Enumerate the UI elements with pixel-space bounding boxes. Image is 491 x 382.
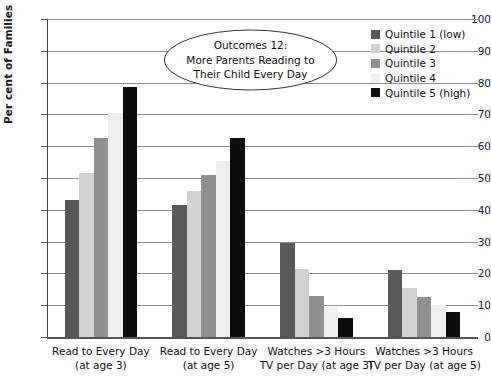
- legend-item[interactable]: Quintile 5 (high): [371, 85, 489, 100]
- legend-swatch-icon: [371, 30, 380, 39]
- legend-label: Quintile 5 (high): [385, 87, 470, 99]
- legend-swatch-icon: [371, 59, 380, 68]
- x-label-line: TV per Day (at age 5): [359, 359, 489, 373]
- bar: [108, 113, 123, 337]
- annotation-callout: Outcomes 12:More Parents Reading toTheir…: [163, 29, 338, 91]
- bar: [402, 288, 417, 337]
- bar: [187, 191, 202, 337]
- x-label-line: Watches >3 Hours: [359, 345, 489, 359]
- bar: [338, 318, 353, 337]
- bar: [201, 175, 216, 337]
- bar: [79, 173, 94, 337]
- bar: [94, 138, 109, 337]
- legend-swatch-icon: [371, 44, 380, 53]
- bar: [309, 296, 324, 337]
- bar: [388, 270, 403, 337]
- annotation-line: More Parents Reading to: [186, 53, 314, 68]
- legend-swatch-icon: [371, 88, 380, 97]
- annotation-text: Outcomes 12:More Parents Reading toTheir…: [163, 29, 338, 91]
- bar: [65, 200, 80, 337]
- y-axis-line: [47, 19, 48, 337]
- legend-label: Quintile 1 (low): [385, 28, 465, 40]
- bar: [295, 269, 310, 337]
- legend-item[interactable]: Quintile 3: [371, 56, 489, 71]
- legend-item[interactable]: Quintile 1 (low): [371, 27, 489, 42]
- bar: [417, 297, 432, 337]
- bar: [172, 205, 187, 337]
- legend: Quintile 1 (low)Quintile 2Quintile 3Quin…: [371, 27, 489, 100]
- legend-label: Quintile 3: [385, 57, 436, 69]
- annotation-line: Their Child Every Day: [194, 67, 308, 82]
- bar-group: [65, 19, 138, 337]
- legend-item[interactable]: Quintile 4: [371, 71, 489, 86]
- annotation-line: Outcomes 12:: [214, 38, 288, 53]
- bar: [324, 307, 339, 337]
- bar: [431, 305, 446, 337]
- legend-swatch-icon: [371, 74, 380, 83]
- legend-item[interactable]: Quintile 2: [371, 42, 489, 57]
- x-axis-label: Watches >3 HoursTV per Day (at age 5): [359, 345, 489, 372]
- legend-label: Quintile 4: [385, 72, 436, 84]
- x-axis-line: [47, 337, 478, 339]
- legend-label: Quintile 2: [385, 43, 436, 55]
- bar-chart: Per cent of Families 1009080706050403020…: [0, 0, 491, 382]
- bar: [446, 312, 461, 337]
- bar: [216, 161, 231, 337]
- bar: [123, 87, 138, 337]
- bar: [230, 138, 245, 337]
- bar: [280, 243, 295, 337]
- y-axis-title: Per cent of Families: [2, 0, 18, 124]
